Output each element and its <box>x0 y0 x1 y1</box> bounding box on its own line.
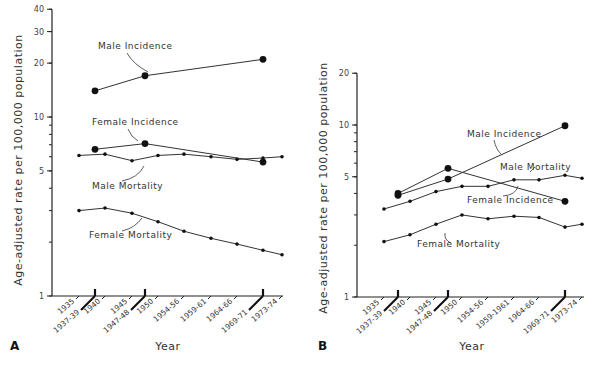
y-axis-title: Age-adjusted rate per 100,000 population <box>317 62 330 313</box>
x-tick-label: 1973-74 <box>249 296 279 323</box>
male-mortality-point <box>512 178 516 182</box>
male-incidence-pointer-arrow <box>494 140 502 155</box>
female-incidence-point <box>142 140 149 147</box>
male-mortality-point <box>460 185 464 189</box>
male-mortality-point <box>77 154 81 158</box>
male-incidence-point <box>562 122 569 129</box>
male-mortality-point <box>209 155 213 159</box>
male-incidence-point <box>92 87 99 94</box>
x-tick-label: 1950 <box>439 297 460 316</box>
y-tick-label: 40 <box>34 5 44 14</box>
female-mortality-label: Female Mortality <box>89 230 172 240</box>
panel-b-chart: 151020Age-adjusted rate per 100,000 popu… <box>317 62 584 353</box>
y-tick-label: 20 <box>34 59 44 68</box>
male-mortality-point <box>486 185 490 189</box>
female-mortality-point <box>486 217 490 221</box>
x-axis-title: Year <box>154 340 180 353</box>
female-mortality-point <box>209 237 213 241</box>
y-tick-label: 1 <box>344 293 349 302</box>
female-incidence-pointer-arrow <box>128 129 138 141</box>
x-axis-title: Year <box>458 340 484 353</box>
y-tick-label: 5 <box>39 167 44 176</box>
x-tick-label: 1954-56 <box>151 296 181 323</box>
female-mortality-point <box>235 242 239 246</box>
male-incidence-label: Male Incidence <box>98 41 172 51</box>
panel-letter: A <box>10 339 20 353</box>
female-incidence-point <box>92 146 99 153</box>
male-mortality-point <box>280 155 284 159</box>
female-mortality-point <box>103 206 107 210</box>
male-mortality-point <box>434 190 438 194</box>
male-mortality-point <box>382 207 386 211</box>
male-mortality-point <box>235 158 239 162</box>
female-mortality-label: Female Mortality <box>417 239 500 249</box>
female-mortality-point <box>434 222 438 226</box>
female-mortality-point <box>580 222 584 226</box>
x-tick-label: 1940 <box>387 297 408 316</box>
female-mortality-point <box>563 225 567 229</box>
female-incidence-point <box>395 190 402 197</box>
male-mortality-point <box>130 159 134 163</box>
male-incidence-point <box>260 56 267 63</box>
male-mortality-point <box>103 152 107 156</box>
male-mortality-point <box>408 200 412 204</box>
female-mortality-point <box>280 253 284 257</box>
female-mortality-point <box>261 249 265 253</box>
female-incidence-point <box>445 165 452 172</box>
y-tick-label: 1 <box>39 292 44 301</box>
male-incidence-label: Male Incidence <box>467 129 541 139</box>
female-mortality-point <box>182 229 186 233</box>
male-incidence-point <box>142 72 149 79</box>
y-tick-label: 30 <box>34 28 44 37</box>
y-tick-label: 10 <box>34 113 44 122</box>
female-incidence-label: Female Incidence <box>92 117 179 127</box>
male-mortality-point <box>182 152 186 156</box>
female-incidence-point <box>562 198 569 205</box>
male-mortality-point <box>537 178 541 182</box>
male-mortality-line <box>79 154 282 161</box>
male-incidence-line <box>95 59 263 91</box>
x-tick-label: 1940 <box>82 296 103 315</box>
panel-a-chart: 1510203040Age-adjusted rate per 100,000 … <box>10 5 284 353</box>
male-mortality-pointer-arrow <box>122 166 144 181</box>
y-tick-label: 10 <box>339 121 349 130</box>
female-mortality-point <box>156 220 160 224</box>
male-incidence-pointer-arrow <box>127 53 148 72</box>
female-mortality-point <box>382 240 386 244</box>
male-mortality-point <box>580 176 584 180</box>
x-tick-label: 1950 <box>135 296 156 315</box>
y-axis-title: Age-adjusted rate per 100,000 population <box>12 34 25 285</box>
male-incidence-point <box>445 176 452 183</box>
x-tick-label: 1973-74 <box>549 297 579 324</box>
female-mortality-point <box>408 233 412 237</box>
male-mortality-label: Male Mortality <box>92 181 163 191</box>
male-mortality-point <box>156 154 160 158</box>
male-mortality-label: Male Mortality <box>500 162 571 172</box>
male-mortality-point <box>261 156 265 160</box>
female-mortality-point <box>460 213 464 217</box>
female-mortality-point <box>512 214 516 218</box>
female-mortality-point <box>537 216 541 220</box>
x-tick-label: 1959-61 <box>178 296 208 323</box>
female-mortality-point <box>77 209 81 213</box>
y-tick-label: 20 <box>339 69 349 78</box>
figure: 1510203040Age-adjusted rate per 100,000 … <box>0 0 597 366</box>
panel-letter: B <box>318 339 327 353</box>
y-tick-label: 5 <box>344 173 349 182</box>
male-mortality-point <box>563 173 567 177</box>
female-incidence-label: Female Incidence <box>467 195 554 205</box>
female-mortality-line <box>384 215 582 242</box>
female-mortality-point <box>130 211 134 215</box>
